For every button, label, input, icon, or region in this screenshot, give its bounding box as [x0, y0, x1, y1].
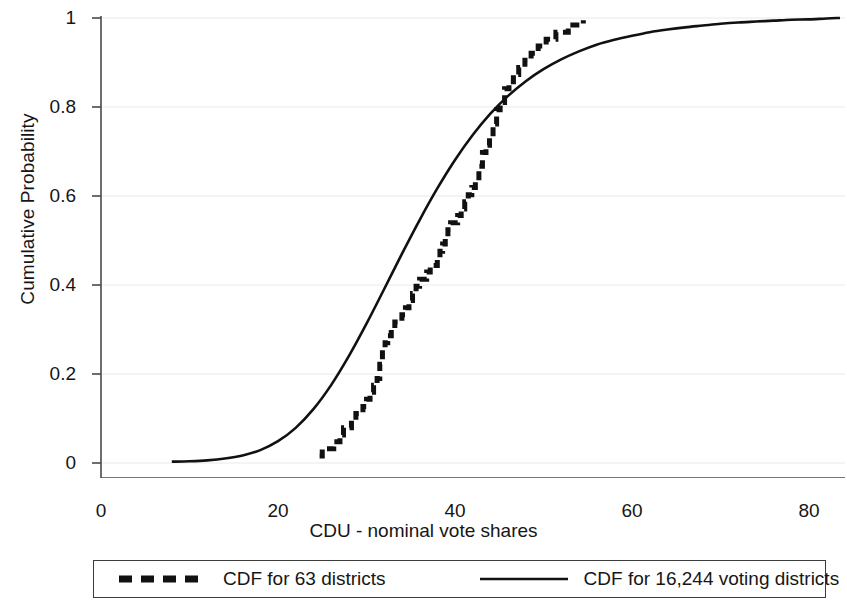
y-tick-label: 0 — [16, 452, 76, 474]
legend-dashed-line-icon — [117, 570, 209, 588]
cdf-chart-figure: Cumulative Probability 00.20.40.60.81 02… — [0, 0, 847, 606]
y-axis-tick-labels: 00.20.40.60.81 — [10, 10, 76, 478]
chart-legend: CDF for 63 districts CDF for 16,244 voti… — [93, 560, 826, 598]
y-tick-label: 0.8 — [16, 96, 76, 118]
x-tick-label: 40 — [425, 500, 485, 522]
legend-entry-dashed: CDF for 63 districts — [117, 561, 386, 597]
y-tick-label: 0.6 — [16, 185, 76, 207]
axis-lines — [101, 16, 845, 478]
axis-tick-marks — [92, 18, 809, 478]
legend-label-solid: CDF for 16,244 voting districts — [584, 568, 840, 590]
x-axis-title: CDU - nominal vote shares — [0, 520, 847, 542]
y-tick-label: 1 — [16, 7, 76, 29]
x-tick-label: 0 — [71, 500, 131, 522]
gridlines — [101, 18, 845, 463]
plot-area — [86, 10, 847, 478]
x-axis-tick-labels: 020406080 — [0, 486, 847, 516]
legend-solid-line-icon — [478, 570, 570, 588]
series-line-1 — [172, 18, 840, 462]
y-tick-label: 0.2 — [16, 363, 76, 385]
x-tick-label: 20 — [248, 500, 308, 522]
series-line-0 — [320, 20, 584, 456]
data-series-layer — [172, 18, 840, 462]
legend-entry-solid: CDF for 16,244 voting districts — [478, 561, 840, 597]
x-tick-label: 80 — [779, 500, 839, 522]
y-tick-label: 0.4 — [16, 274, 76, 296]
plot-svg — [86, 10, 847, 478]
legend-label-dashed: CDF for 63 districts — [223, 568, 386, 590]
x-tick-label: 60 — [602, 500, 662, 522]
